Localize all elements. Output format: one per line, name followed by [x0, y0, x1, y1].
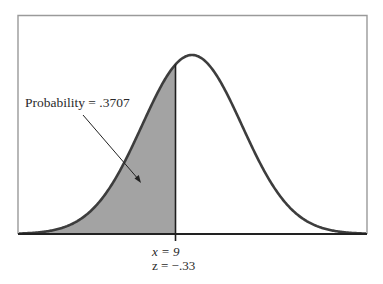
- x-value-label: x = 9: [151, 244, 180, 259]
- probability-label: Probability = .3707: [25, 95, 130, 110]
- chart-frame: [18, 16, 367, 235]
- z-value-text: z = −.33: [152, 258, 195, 273]
- shaded-probability-area: [19, 64, 176, 234]
- normal-distribution-chart: Probability = .3707 x = 9 z = −.33: [0, 0, 383, 284]
- x-value-text: x = 9: [151, 244, 180, 259]
- normal-curve: [19, 55, 366, 234]
- z-value-label: z = −.33: [152, 258, 195, 273]
